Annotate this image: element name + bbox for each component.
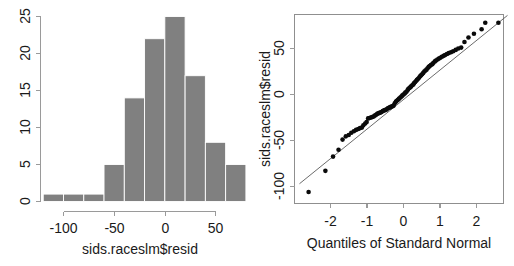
- qqplot-point: [466, 35, 471, 40]
- histogram-bar: [124, 98, 144, 202]
- histogram-ytick-label-20: 20: [17, 45, 33, 61]
- histogram-bars: [43, 17, 246, 202]
- histogram-ytick-label-0: 0: [17, 197, 33, 205]
- histogram-bar: [84, 194, 104, 201]
- histogram-ytick-label-5: 5: [17, 160, 33, 168]
- qqplot-y-axis-title: sids.raceslm$resid: [257, 51, 273, 167]
- qqplot-panel: -100 -50 0 50 sids.raceslm$resid -2 -1 0…: [257, 0, 514, 266]
- histogram-svg: 0 5 10 15 20 25 -100 -50 0 50 sids.races…: [0, 0, 257, 266]
- histogram-x-axis-title: sids.raceslm$resid: [82, 241, 198, 257]
- qqplot-ytick-label-50: 50: [271, 40, 287, 56]
- qqplot-xtick-label--2: -2: [324, 213, 337, 229]
- histogram-xtick-label--100: -100: [49, 220, 77, 236]
- histogram-ytick-label-10: 10: [17, 119, 33, 135]
- histogram-y-ticks: [36, 17, 41, 202]
- qqplot-xtick-label--1: -1: [361, 213, 374, 229]
- qqplot-reference-line: [299, 15, 507, 183]
- qqplot-box-frame: [295, 15, 504, 204]
- figure-container: 0 5 10 15 20 25 -100 -50 0 50 sids.races…: [0, 0, 514, 266]
- qqplot-x-axis-title: Quantiles of Standard Normal: [307, 235, 491, 251]
- qqplot-point: [340, 137, 345, 142]
- qqplot-ytick-label--50: -50: [271, 130, 287, 150]
- histogram-bar: [43, 194, 63, 201]
- qqplot-point: [336, 147, 341, 152]
- histogram-bar: [64, 194, 84, 201]
- qqplot-svg: -100 -50 0 50 sids.raceslm$resid -2 -1 0…: [257, 0, 514, 266]
- histogram-xtick-label-50: 50: [208, 220, 224, 236]
- qqplot-xtick-label-1: 1: [436, 213, 444, 229]
- histogram-panel: 0 5 10 15 20 25 -100 -50 0 50 sids.races…: [0, 0, 257, 266]
- qqplot-point: [483, 20, 488, 25]
- qqplot-xtick-label-0: 0: [400, 213, 408, 229]
- histogram-ytick-label-15: 15: [17, 82, 33, 98]
- histogram-bar: [145, 39, 165, 202]
- qqplot-point: [496, 20, 501, 25]
- histogram-bar: [205, 142, 225, 201]
- qqplot-point: [323, 169, 328, 174]
- histogram-bar: [226, 165, 246, 202]
- histogram-bar: [104, 165, 124, 202]
- histogram-bar: [165, 17, 185, 202]
- histogram-xtick-label-0: 0: [162, 220, 170, 236]
- qqplot-point: [472, 31, 477, 36]
- histogram-bar: [185, 76, 205, 202]
- qqplot-ytick-label-0: 0: [271, 90, 287, 98]
- histogram-xtick-label--50: -50: [104, 220, 124, 236]
- histogram-x-ticks: [64, 212, 216, 217]
- qqplot-x-ticks: [331, 204, 477, 209]
- histogram-ytick-label-25: 25: [17, 8, 33, 24]
- qqplot-point: [331, 154, 336, 159]
- qqplot-reference-line-segment: [299, 15, 507, 183]
- qqplot-point: [459, 45, 464, 50]
- qqplot-xtick-label-2: 2: [473, 213, 481, 229]
- qqplot-point: [462, 40, 467, 45]
- qqplot-point: [306, 190, 311, 195]
- qqplot-ytick-label--100: -100: [271, 172, 287, 200]
- qqplot-point: [479, 27, 484, 32]
- qqplot-points: [306, 20, 500, 194]
- qqplot-y-ticks: [290, 49, 295, 187]
